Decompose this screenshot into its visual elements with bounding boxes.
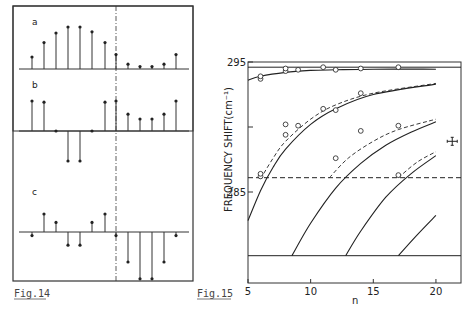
data-point <box>358 129 363 134</box>
data-point <box>258 74 263 79</box>
stem-marker <box>54 31 57 34</box>
stem-marker <box>90 30 93 33</box>
stem-marker <box>54 221 57 224</box>
data-point <box>296 67 301 72</box>
stem-marker <box>90 129 93 132</box>
stem-marker <box>150 117 153 120</box>
figure-canvas: abc Fig.14 Fig.15 5101520285295 FREQUENC… <box>0 0 473 309</box>
data-point <box>358 66 363 71</box>
fig15-caption: Fig.15 <box>197 288 233 299</box>
stem-marker <box>174 99 177 102</box>
stem-marker <box>42 101 45 104</box>
x-axis-label: n <box>352 295 358 306</box>
stem-marker <box>42 41 45 44</box>
data-point <box>333 156 338 161</box>
stem-marker <box>30 55 33 58</box>
stem-marker <box>150 277 153 280</box>
plot-frame <box>248 62 461 283</box>
curve-branch5-solid <box>398 215 436 255</box>
fig14-panel-b: b <box>19 80 189 163</box>
fig14-caption: Fig.14 <box>14 288 50 299</box>
fig14-panel-c: c <box>19 187 189 280</box>
stem-marker <box>162 260 165 263</box>
stem-marker <box>114 53 117 56</box>
stem-marker <box>66 25 69 28</box>
stem-marker <box>126 63 129 66</box>
stem-marker <box>30 234 33 237</box>
stem-marker <box>78 244 81 247</box>
stem-marker <box>174 53 177 56</box>
stem-marker <box>42 212 45 215</box>
stem-marker <box>162 113 165 116</box>
stem-marker <box>138 65 141 68</box>
stem-marker <box>66 159 69 162</box>
curve-branch3-solid <box>292 122 436 256</box>
x-tick-label: 5 <box>245 286 251 297</box>
stem-marker <box>138 277 141 280</box>
data-point <box>258 171 263 176</box>
data-point <box>283 66 288 71</box>
stem-marker <box>150 65 153 68</box>
panel-label: c <box>32 187 37 197</box>
x-tick-label: 10 <box>304 286 317 297</box>
data-point <box>283 122 288 127</box>
y-tick-label: 295 <box>227 57 246 68</box>
data-point <box>333 67 338 72</box>
stem-marker <box>114 99 117 102</box>
stem-marker <box>30 99 33 102</box>
stem-marker <box>126 260 129 263</box>
stem-marker <box>103 41 106 44</box>
x-tick-label: 15 <box>367 286 380 297</box>
data-point <box>358 91 363 96</box>
stem-marker <box>114 234 117 237</box>
data-point <box>396 123 401 128</box>
stem-marker <box>126 113 129 116</box>
error-bar-icon <box>447 137 457 145</box>
stem-marker <box>138 117 141 120</box>
stem-marker <box>103 212 106 215</box>
data-point <box>296 123 301 128</box>
stem-marker <box>54 129 57 132</box>
curve-branch1-solid <box>248 69 436 80</box>
stem-marker <box>66 244 69 247</box>
stem-marker <box>90 221 93 224</box>
curve-branch4-dashed <box>398 152 436 178</box>
panel-label: a <box>32 17 38 27</box>
curve-branch4-solid <box>346 156 436 256</box>
data-point <box>321 106 326 111</box>
stem-marker <box>78 159 81 162</box>
data-point <box>396 65 401 70</box>
data-point <box>333 108 338 113</box>
curve-branch2-dashed <box>261 83 436 179</box>
stem-marker <box>162 63 165 66</box>
stem-marker <box>103 101 106 104</box>
data-point <box>321 65 326 70</box>
x-tick-label: 20 <box>430 286 443 297</box>
stem-marker <box>174 234 177 237</box>
fig15-chart: Fig.15 5101520285295 FREQUENCY SHIFT(cm⁻… <box>197 57 461 306</box>
panel-label: b <box>32 80 38 90</box>
curve-branch2-solid <box>248 84 436 221</box>
data-point <box>396 173 401 178</box>
stem-marker <box>78 25 81 28</box>
fig14-frame-outer <box>13 6 193 281</box>
fig14-panel-a: a <box>19 17 189 69</box>
y-axis-label: FREQUENCY SHIFT(cm⁻¹) <box>223 87 234 212</box>
fig14-stem-plot: abc Fig.14 <box>13 6 193 299</box>
data-point <box>283 132 288 137</box>
